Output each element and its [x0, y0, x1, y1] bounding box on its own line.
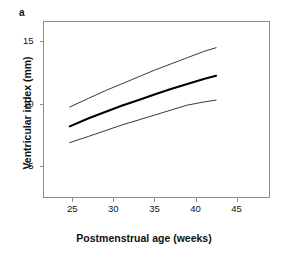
x-tick-label: 40 — [181, 204, 211, 214]
x-tick-label: 25 — [57, 204, 87, 214]
axis-ticks — [40, 42, 238, 202]
y-axis-title-wrapper: Ventricular index (mm) — [17, 23, 35, 203]
y-axis-title: Ventricular index (mm) — [21, 56, 33, 169]
data-curves — [70, 48, 216, 143]
x-axis-title: Postmenstrual age (weeks) — [0, 232, 288, 244]
curve-lower-reference-limit — [70, 100, 216, 142]
figure-panel-a: a 51015 2530354045 Postmenstrual age (we… — [0, 0, 288, 266]
chart-canvas — [0, 0, 288, 266]
x-tick-label: 30 — [98, 204, 128, 214]
x-tick-label: 35 — [139, 204, 169, 214]
x-tick-label: 45 — [222, 204, 252, 214]
